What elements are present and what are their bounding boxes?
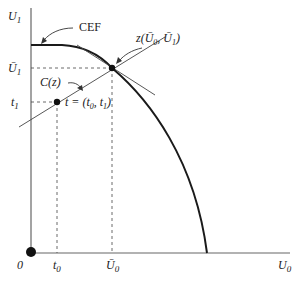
cz-arrowhead-icon bbox=[77, 85, 83, 91]
z-point bbox=[109, 65, 115, 71]
tangent-line bbox=[77, 45, 155, 95]
y-tick-t1: t1 bbox=[11, 95, 19, 111]
cz-label: C(z) bbox=[40, 75, 61, 89]
z-arrow bbox=[119, 48, 142, 61]
diagram: U1 U0 0 Ū1 t1 t0 Ū0 CEF C(z) z(Ū0, Ū1) t… bbox=[0, 0, 305, 282]
t-point-label: t = (t0, t1) bbox=[65, 95, 111, 111]
x-axis-label: U0 bbox=[278, 258, 292, 274]
y-tick-u1: Ū1 bbox=[8, 61, 21, 77]
y-axis-label: U1 bbox=[8, 9, 21, 25]
x-tick-t0: t0 bbox=[53, 258, 61, 274]
z-arrowhead-icon bbox=[116, 57, 122, 64]
x-tick-u0: Ū0 bbox=[106, 258, 120, 274]
origin-label: 0 bbox=[17, 258, 23, 272]
z-point-label: z(Ū0, Ū1) bbox=[135, 31, 180, 47]
cef-arrow bbox=[44, 28, 73, 40]
cef-label: CEF bbox=[79, 20, 101, 34]
t-point bbox=[54, 99, 60, 105]
origin-dot bbox=[26, 247, 36, 257]
